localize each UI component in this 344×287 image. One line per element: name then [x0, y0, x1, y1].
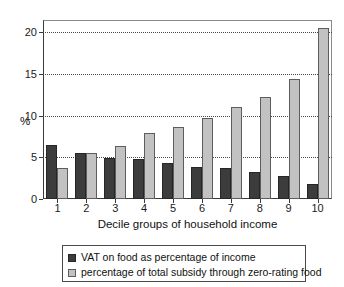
legend-item-vat: VAT on food as percentage of income [68, 250, 300, 265]
bar [133, 159, 144, 199]
legend-swatch-light-icon [68, 269, 76, 277]
bar-group [72, 20, 101, 199]
y-tick-label: 0 [15, 194, 37, 205]
chart-figure: % 05101520 12345678910 Decile groups of … [0, 0, 344, 287]
y-tick-mark [39, 199, 43, 200]
bar-group [245, 20, 274, 199]
y-tick-label: 15 [15, 69, 37, 80]
x-axis-title: Decile groups of household income [43, 218, 332, 230]
chart-legend: VAT on food as percentage of income perc… [62, 245, 306, 282]
legend-swatch-dark-icon [68, 254, 76, 262]
x-tick-label: 8 [257, 202, 263, 214]
x-tick-label: 3 [112, 202, 118, 214]
y-tick-label: 10 [15, 110, 37, 121]
x-tick-label: 2 [83, 202, 89, 214]
bar-group [216, 20, 245, 199]
bar-groups [43, 20, 332, 199]
x-tick-label: 9 [286, 202, 292, 214]
bar [57, 168, 68, 199]
bar [278, 176, 289, 199]
legend-label-vat: VAT on food as percentage of income [81, 252, 256, 263]
bar [307, 184, 318, 199]
bar [46, 145, 57, 199]
bar-group [274, 20, 303, 199]
x-tick-label: 1 [54, 202, 60, 214]
y-tick-label: 5 [15, 152, 37, 163]
bar [115, 146, 126, 199]
bar-group [101, 20, 130, 199]
bar [318, 28, 329, 200]
x-tick-label: 5 [170, 202, 176, 214]
bar-group [303, 20, 332, 199]
bar-group [43, 20, 72, 199]
bar [86, 153, 97, 199]
bar [173, 127, 184, 199]
y-tick-label: 20 [15, 27, 37, 38]
bar [75, 153, 86, 199]
legend-item-subsidy: percentage of total subsidy through zero… [68, 265, 300, 280]
bar [162, 163, 173, 199]
bar-group [188, 20, 217, 199]
bar [289, 79, 300, 199]
bar [260, 97, 271, 199]
bar [220, 168, 231, 199]
x-tick-label: 7 [228, 202, 234, 214]
bar-group [130, 20, 159, 199]
bar [144, 133, 155, 199]
x-tick-label: 4 [141, 202, 147, 214]
bar [191, 167, 202, 199]
bar-group [159, 20, 188, 199]
bar [104, 158, 115, 199]
x-tick-label: 10 [311, 202, 323, 214]
bar [249, 172, 260, 199]
legend-label-subsidy: percentage of total subsidy through zero… [81, 267, 322, 278]
bar [231, 107, 242, 199]
x-tick-label: 6 [199, 202, 205, 214]
bar [202, 118, 213, 199]
plot-area [43, 20, 332, 199]
